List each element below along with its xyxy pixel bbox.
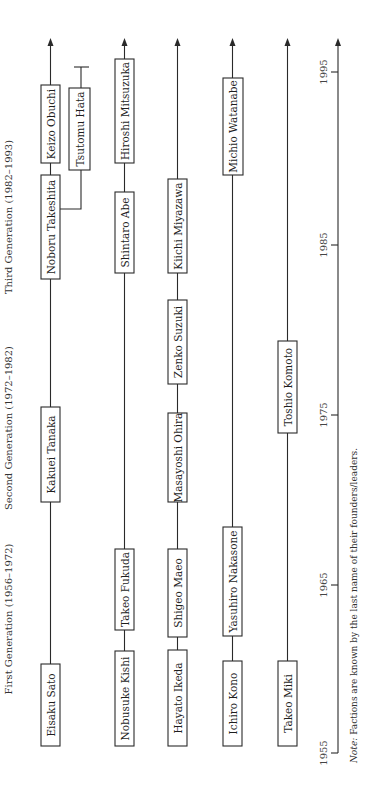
- leader-name: Shigeo Maeo: [172, 558, 184, 627]
- leader-name: Noboru Takeshita: [45, 180, 57, 275]
- time-axis: 1955 1965 1975 1985 1995: [318, 38, 341, 766]
- leader-box-nobusuke-kishi: Nobusuke Kishi: [115, 651, 134, 746]
- arrow-up-icon: [122, 38, 128, 46]
- footnote-prefix: Note:: [349, 738, 359, 764]
- leader-name: Ichiro Kono: [227, 673, 239, 735]
- leader-box-takeo-fukuda: Takeo Fukuda: [115, 549, 134, 630]
- leader-name: Yasuhiro Nakasone: [227, 530, 239, 633]
- leader-box-michio-watanabe: Michio Watanabe: [223, 78, 243, 175]
- arrow-up-icon: [230, 38, 236, 46]
- leader-box-hayato-ikeda: Hayato Ikeda: [168, 650, 187, 746]
- leader-name: Shintaro Abe: [119, 198, 131, 268]
- leader-name: Tsutomu Hata: [74, 92, 86, 167]
- lineage-miki: Takeo Miki Toshio Komoto: [278, 38, 297, 746]
- footnote: Note: Factions are known by the last nam…: [349, 448, 359, 764]
- leader-name: Toshio Komoto: [282, 348, 294, 426]
- tick-label-1955: 1955: [318, 740, 329, 765]
- leader-box-takeo-miki: Takeo Miki: [278, 661, 297, 746]
- leader-box-masayoshi-ohira: Masayoshi Ohira: [168, 413, 187, 503]
- leader-name: Hayato Ikeda: [172, 662, 184, 733]
- leader-name: Nobusuke Kishi: [119, 656, 131, 740]
- lineage-kishi: Nobusuke Kishi Takeo Fukuda Shintaro Abe…: [115, 38, 134, 746]
- leader-box-tsutomu-hata: Tsutomu Hata: [69, 88, 90, 170]
- generation-label-first: First Generation (1956–1972): [3, 543, 14, 694]
- tick-label-1975: 1975: [318, 402, 329, 427]
- arrow-up-icon: [48, 38, 54, 46]
- leader-box-kakuei-tanaka: Kakuei Tanaka: [41, 407, 60, 502]
- leader-name: Zenko Suzuki: [172, 305, 184, 378]
- leader-box-yasuhiro-nakasone: Yasuhiro Nakasone: [223, 527, 242, 636]
- leader-name: Hiroshi Mitsuzuka: [119, 62, 131, 160]
- leader-box-keizo-obuchi: Keizo Obuchi: [41, 85, 60, 163]
- leader-name: Takeo Fukuda: [119, 552, 131, 627]
- leader-name: Michio Watanabe: [227, 80, 239, 172]
- lineage-ikeda: Hayato Ikeda Shigeo Maeo Masayoshi Ohira…: [168, 38, 187, 746]
- lineage-kono: Ichiro Kono Yasuhiro Nakasone Michio Wat…: [223, 38, 243, 746]
- tick-label-1995: 1995: [318, 59, 329, 84]
- arrow-up-icon: [335, 38, 341, 46]
- leader-box-shigeo-maeo: Shigeo Maeo: [168, 549, 187, 637]
- leader-box-kiichi-miyazawa: Kiichi Miyazawa: [168, 179, 187, 273]
- leader-box-noboru-takeshita: Noboru Takeshita: [41, 175, 60, 279]
- leader-name: Keizo Obuchi: [45, 88, 57, 159]
- leader-box-shintaro-abe: Shintaro Abe: [115, 192, 134, 273]
- lineage-sato: Eisaku Sato Kakuei Tanaka Noboru Takeshi…: [41, 38, 90, 746]
- leader-box-toshio-komoto: Toshio Komoto: [278, 341, 297, 433]
- footnote-text: Factions are known by the last name of t…: [349, 448, 359, 738]
- leader-name: Eisaku Sato: [45, 673, 57, 736]
- leader-box-zenko-suzuki: Zenko Suzuki: [168, 300, 187, 384]
- leader-name: Takeo Miki: [282, 674, 294, 733]
- faction-lineage-diagram: Third Generation (1982–1993) Second Gene…: [0, 0, 369, 800]
- leader-name: Masayoshi Ohira: [172, 413, 184, 503]
- tick-label-1965: 1965: [318, 572, 329, 597]
- arrow-up-icon: [175, 38, 181, 46]
- leader-box-ichiro-kono: Ichiro Kono: [223, 661, 242, 746]
- leader-name: Kiichi Miyazawa: [172, 182, 184, 269]
- leader-box-hiroshi-mitsuzuka: Hiroshi Mitsuzuka: [115, 59, 134, 163]
- leader-box-eisaku-sato: Eisaku Sato: [41, 664, 60, 746]
- arrow-up-icon: [285, 38, 291, 46]
- tick-label-1985: 1985: [318, 232, 329, 257]
- leader-name: Kakuei Tanaka: [45, 415, 57, 493]
- generation-label-third: Third Generation (1982–1993): [3, 140, 14, 294]
- generation-label-second: Second Generation (1972–1982): [3, 346, 14, 510]
